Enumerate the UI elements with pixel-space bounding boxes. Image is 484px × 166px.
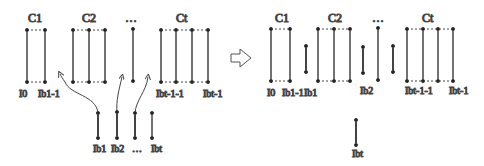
remaining-line-ibt <box>354 118 357 146</box>
label-ibt1-minus-1: Ibt-1-1 <box>405 85 433 96</box>
label-ibt-minus-1: Ibt-1 <box>203 88 222 99</box>
move-arrow-ib2 <box>117 77 122 113</box>
cluster-ct <box>405 27 454 82</box>
cluster-ct <box>159 28 209 83</box>
cluster-label-c2: C2 <box>82 11 96 25</box>
cluster-label-ct: Ct <box>176 11 188 25</box>
diagram: C1 C2 … Ct <box>0 0 484 166</box>
label-ib1: Ib1 <box>304 87 317 98</box>
cluster-label-dots: … <box>372 11 384 25</box>
right-outline-arrow-icon <box>231 49 251 67</box>
single-line <box>131 27 134 82</box>
label-ibt: Ibt <box>352 148 363 159</box>
cluster-label-c1: C1 <box>275 11 289 25</box>
label-ib1-minus-1: Ib1-1 <box>282 87 304 98</box>
label-ibt-minus-1: Ibt-1 <box>449 85 468 96</box>
label-ib2: Ib2 <box>360 85 373 96</box>
label-ib1: Ib1 <box>93 143 106 154</box>
cluster-label-dots: … <box>125 11 137 25</box>
label-ibt: Ibt <box>151 143 162 154</box>
label-i0: I0 <box>19 88 27 99</box>
right-panel: C1 C2 … Ct <box>267 11 468 159</box>
label-ib2: Ib2 <box>111 143 124 154</box>
left-panel: C1 C2 … Ct <box>19 11 222 154</box>
cluster-c1 <box>269 27 291 82</box>
cluster-label-ct: Ct <box>422 11 434 25</box>
move-arrow-ib1 <box>60 74 98 113</box>
cluster-c2 <box>316 27 351 82</box>
bottom-lines <box>96 110 153 139</box>
cluster-label-c1: C1 <box>28 11 42 25</box>
moved-line-other <box>391 44 394 73</box>
cluster-label-c2: C2 <box>328 11 342 25</box>
moved-line-ib1 <box>304 44 307 73</box>
cluster-c2 <box>71 28 106 83</box>
label-ib1-minus-1: Ib1-1 <box>38 88 60 99</box>
label-i0: I0 <box>267 87 275 98</box>
moved-line-ib2 <box>361 45 364 74</box>
label-dots: … <box>132 143 142 154</box>
label-ibt1-minus-1: Ibt-1-1 <box>156 88 184 99</box>
move-arrow-ibt <box>135 77 148 113</box>
single-line <box>376 26 379 81</box>
cluster-c1 <box>25 28 46 83</box>
